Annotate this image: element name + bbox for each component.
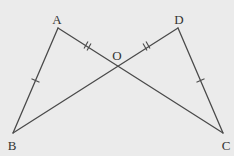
point-label-a: A bbox=[52, 13, 61, 26]
point-label-c: C bbox=[222, 139, 231, 152]
point-label-d: D bbox=[174, 13, 183, 26]
point-label-o: O bbox=[112, 49, 121, 62]
segment-db bbox=[13, 28, 178, 133]
segment-ac bbox=[58, 28, 223, 133]
point-label-b: B bbox=[8, 139, 17, 152]
tick-mark-ao bbox=[84, 41, 91, 50]
geometry-diagram bbox=[0, 0, 234, 156]
